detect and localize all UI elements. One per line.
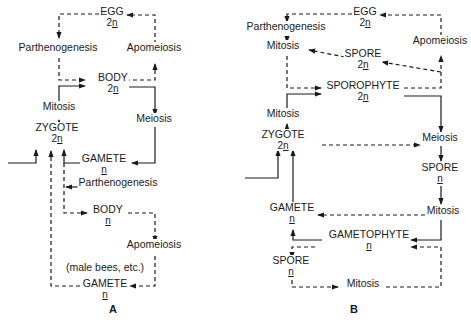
- node-b-sporen2: SPOREn: [272, 255, 311, 277]
- connector-solid-arrow: [132, 127, 155, 163]
- connector-solid-arrow: [411, 220, 441, 240]
- node-label: Parthenogenesis: [19, 41, 98, 53]
- node-a-zygote: ZYGOTE2n: [34, 122, 79, 144]
- connector-dashed-arrow: [404, 56, 441, 88]
- node-label: SPORE: [345, 47, 382, 59]
- node-label: Meiosis: [422, 131, 458, 143]
- diagram-a-caption: A: [109, 303, 117, 315]
- node-label: Apomeiosis: [127, 41, 181, 53]
- node-a-gamete1: GAMETEn: [81, 153, 127, 175]
- node-b-mitosis3: Mitosis: [426, 205, 461, 216]
- node-b-mitosis2: Mitosis: [266, 108, 301, 119]
- ploidy-label: n: [273, 266, 310, 277]
- node-label: EGG: [100, 5, 123, 17]
- connector-dashed-arrow: [309, 50, 345, 57]
- node-b-mitosis4: Mitosis: [346, 278, 381, 289]
- node-label: Apomeiosis: [127, 238, 181, 250]
- node-b-sporen1: SPOREn: [421, 162, 460, 184]
- ploidy-label: n: [82, 164, 126, 175]
- node-a-apo2: Apomeiosis: [126, 239, 182, 250]
- ploidy-label: n: [329, 240, 409, 251]
- node-a-meiosis: Meiosis: [135, 113, 173, 124]
- diagram-b-caption: B: [350, 303, 358, 315]
- node-b-gamete: GAMETEn: [269, 202, 315, 224]
- connector-dashed-arrow: [126, 64, 155, 80]
- connector-dashed-arrow: [59, 58, 85, 80]
- node-b-zygote: ZYGOTE2n: [260, 129, 305, 151]
- node-label: Mitosis: [267, 107, 300, 119]
- node-label: GAMETE: [270, 201, 314, 213]
- ploidy-label: n: [93, 215, 123, 226]
- node-a-egg: EGG2n: [99, 6, 124, 28]
- ploidy-label: 2n: [345, 59, 382, 70]
- node-a-gamete2: GAMETEn: [82, 278, 128, 300]
- node-label: Parthenogenesis: [79, 176, 158, 188]
- connector-solid-arrow: [64, 150, 80, 163]
- connector-dashed-arrow: [292, 280, 338, 287]
- connector-dashed-arrow: [59, 14, 99, 38]
- ploidy-label: n: [422, 173, 459, 184]
- connector-solid-arrow: [126, 87, 155, 115]
- node-b-meiosis: Meiosis: [421, 132, 459, 143]
- connector-dashed-arrow: [127, 15, 155, 44]
- node-a-mitosis: Mitosis: [42, 101, 77, 112]
- node-b-apo: Apomeiosis: [412, 35, 468, 46]
- connector-dashed-arrow: [287, 56, 321, 88]
- connector-solid-arrow: [8, 150, 36, 163]
- node-label: (male bees, etc.): [66, 261, 144, 273]
- node-label: Mitosis: [43, 100, 76, 112]
- connector-solid-arrow: [404, 96, 441, 132]
- node-label: Apomeiosis: [413, 34, 467, 46]
- node-b-egg: EGG2n: [352, 6, 377, 28]
- node-b-spore2n: SPORE2n: [344, 48, 383, 70]
- connector-solid-arrow: [293, 230, 322, 240]
- node-label: Mitosis: [347, 277, 380, 289]
- connector-dashed-arrow: [386, 247, 441, 287]
- node-b-gametophyte: GAMETOPHYTEn: [328, 229, 410, 251]
- connector-dashed-arrow: [382, 62, 441, 72]
- connector-dashed-arrow: [380, 15, 441, 36]
- ploidy-label: 2n: [353, 17, 376, 28]
- connector-solid-arrow: [245, 150, 278, 178]
- node-label: SPOROPHYTE: [327, 79, 400, 91]
- node-label: Mitosis: [427, 204, 460, 216]
- node-label: EGG: [353, 5, 376, 17]
- node-label: SPORE: [273, 254, 310, 266]
- node-a-note: (male bees, etc.): [65, 262, 145, 273]
- ploidy-label: n: [83, 289, 127, 300]
- node-label: Parthenogenesis: [247, 20, 326, 32]
- node-label: SPORE: [422, 161, 459, 173]
- node-label: GAMETE: [83, 277, 127, 289]
- node-a-parth2: Parthenogenesis: [78, 177, 159, 188]
- node-label: ZYGOTE: [261, 128, 304, 140]
- node-label: ZYGOTE: [35, 121, 78, 133]
- node-b-parth: Parthenogenesis: [246, 21, 327, 32]
- ploidy-label: 2n: [98, 83, 128, 94]
- node-label: GAMETE: [82, 152, 126, 164]
- node-a-apo1: Apomeiosis: [126, 42, 182, 53]
- ploidy-label: 2n: [100, 17, 123, 28]
- ploidy-label: 2n: [327, 91, 400, 102]
- ploidy-label: 2n: [261, 140, 304, 151]
- node-a-body2n: BODY2n: [97, 72, 129, 94]
- node-b-sporophyte: SPOROPHYTE2n: [326, 80, 401, 102]
- node-b-mitosis1: Mitosis: [266, 40, 301, 51]
- node-a-bodyn: BODYn: [92, 204, 124, 226]
- node-label: BODY: [93, 203, 123, 215]
- node-label: Meiosis: [136, 112, 172, 124]
- node-label: BODY: [98, 71, 128, 83]
- ploidy-label: 2n: [35, 133, 78, 144]
- node-label: Mitosis: [267, 39, 300, 51]
- node-a-parth1: Parthenogenesis: [18, 42, 99, 53]
- ploidy-label: n: [270, 213, 314, 224]
- node-label: GAMETOPHYTE: [329, 228, 409, 240]
